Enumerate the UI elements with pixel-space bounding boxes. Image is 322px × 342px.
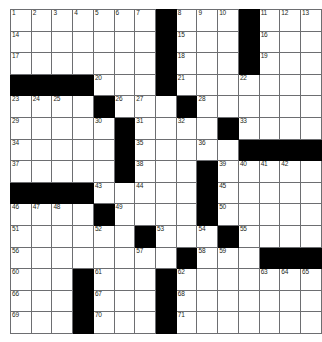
- crossword-cell[interactable]: [218, 53, 239, 75]
- crossword-cell[interactable]: [176, 161, 197, 183]
- crossword-cell[interactable]: 71: [176, 312, 197, 334]
- crossword-cell[interactable]: 53: [156, 225, 177, 247]
- crossword-cell[interactable]: 44: [135, 182, 156, 204]
- crossword-cell[interactable]: 15: [176, 31, 197, 53]
- crossword-cell[interactable]: [156, 117, 177, 139]
- crossword-cell[interactable]: 31: [135, 117, 156, 139]
- crossword-cell[interactable]: [259, 204, 280, 226]
- crossword-cell[interactable]: 60: [11, 269, 32, 291]
- crossword-cell[interactable]: [259, 74, 280, 96]
- crossword-cell[interactable]: [280, 53, 301, 75]
- crossword-cell[interactable]: [73, 225, 94, 247]
- crossword-cell[interactable]: 52: [93, 225, 114, 247]
- crossword-cell[interactable]: [31, 312, 52, 334]
- crossword-cell[interactable]: [259, 96, 280, 118]
- crossword-cell[interactable]: 59: [218, 247, 239, 269]
- crossword-cell[interactable]: [301, 117, 322, 139]
- crossword-cell[interactable]: 61: [93, 269, 114, 291]
- crossword-cell[interactable]: [114, 74, 135, 96]
- crossword-cell[interactable]: [73, 204, 94, 226]
- crossword-cell[interactable]: 69: [11, 312, 32, 334]
- crossword-cell[interactable]: [52, 139, 73, 161]
- crossword-cell[interactable]: [31, 139, 52, 161]
- crossword-cell[interactable]: 9: [197, 10, 218, 32]
- crossword-cell[interactable]: [114, 182, 135, 204]
- crossword-cell[interactable]: [280, 96, 301, 118]
- crossword-cell[interactable]: 7: [135, 10, 156, 32]
- crossword-cell[interactable]: [114, 290, 135, 312]
- crossword-cell[interactable]: 23: [11, 96, 32, 118]
- crossword-cell[interactable]: [52, 161, 73, 183]
- crossword-cell[interactable]: [218, 312, 239, 334]
- crossword-cell[interactable]: 57: [135, 247, 156, 269]
- crossword-cell[interactable]: [176, 139, 197, 161]
- crossword-cell[interactable]: 62: [176, 269, 197, 291]
- crossword-cell[interactable]: [238, 247, 259, 269]
- crossword-cell[interactable]: [218, 139, 239, 161]
- crossword-cell[interactable]: [93, 161, 114, 183]
- crossword-cell[interactable]: [114, 53, 135, 75]
- crossword-cell[interactable]: [52, 117, 73, 139]
- crossword-cell[interactable]: [280, 225, 301, 247]
- crossword-cell[interactable]: 28: [197, 96, 218, 118]
- crossword-cell[interactable]: 3: [52, 10, 73, 32]
- crossword-cell[interactable]: [31, 225, 52, 247]
- crossword-cell[interactable]: [135, 74, 156, 96]
- crossword-cell[interactable]: 32: [176, 117, 197, 139]
- crossword-cell[interactable]: 65: [301, 269, 322, 291]
- crossword-cell[interactable]: [280, 74, 301, 96]
- crossword-cell[interactable]: [197, 53, 218, 75]
- crossword-cell[interactable]: 50: [218, 204, 239, 226]
- crossword-cell[interactable]: 34: [11, 139, 32, 161]
- crossword-cell[interactable]: [197, 74, 218, 96]
- crossword-cell[interactable]: [238, 204, 259, 226]
- crossword-cell[interactable]: [93, 139, 114, 161]
- crossword-cell[interactable]: 68: [176, 290, 197, 312]
- crossword-cell[interactable]: 56: [11, 247, 32, 269]
- crossword-cell[interactable]: [135, 31, 156, 53]
- crossword-cell[interactable]: 22: [238, 74, 259, 96]
- crossword-cell[interactable]: [259, 182, 280, 204]
- crossword-cell[interactable]: 63: [259, 269, 280, 291]
- crossword-cell[interactable]: 11: [259, 10, 280, 32]
- crossword-cell[interactable]: 48: [52, 204, 73, 226]
- crossword-cell[interactable]: 13: [301, 10, 322, 32]
- crossword-cell[interactable]: [238, 290, 259, 312]
- crossword-cell[interactable]: [135, 290, 156, 312]
- crossword-cell[interactable]: [301, 96, 322, 118]
- crossword-cell[interactable]: [156, 139, 177, 161]
- crossword-cell[interactable]: [73, 31, 94, 53]
- crossword-cell[interactable]: [218, 269, 239, 291]
- crossword-cell[interactable]: 8: [176, 10, 197, 32]
- crossword-cell[interactable]: [156, 204, 177, 226]
- crossword-cell[interactable]: 19: [259, 53, 280, 75]
- crossword-cell[interactable]: [52, 225, 73, 247]
- crossword-cell[interactable]: [259, 312, 280, 334]
- crossword-cell[interactable]: 14: [11, 31, 32, 53]
- crossword-cell[interactable]: 47: [31, 204, 52, 226]
- crossword-cell[interactable]: 35: [135, 139, 156, 161]
- crossword-cell[interactable]: [301, 74, 322, 96]
- crossword-cell[interactable]: [238, 312, 259, 334]
- crossword-cell[interactable]: [176, 225, 197, 247]
- crossword-cell[interactable]: 38: [135, 161, 156, 183]
- crossword-cell[interactable]: [52, 31, 73, 53]
- crossword-cell[interactable]: 33: [238, 117, 259, 139]
- crossword-cell[interactable]: 20: [93, 74, 114, 96]
- crossword-cell[interactable]: 30: [93, 117, 114, 139]
- crossword-cell[interactable]: [135, 204, 156, 226]
- crossword-cell[interactable]: [301, 225, 322, 247]
- crossword-cell[interactable]: [31, 117, 52, 139]
- crossword-cell[interactable]: [259, 290, 280, 312]
- crossword-cell[interactable]: 70: [93, 312, 114, 334]
- crossword-cell[interactable]: 18: [176, 53, 197, 75]
- crossword-cell[interactable]: [73, 117, 94, 139]
- crossword-cell[interactable]: [280, 182, 301, 204]
- crossword-cell[interactable]: [301, 312, 322, 334]
- crossword-cell[interactable]: [52, 290, 73, 312]
- crossword-cell[interactable]: [176, 182, 197, 204]
- crossword-cell[interactable]: [114, 312, 135, 334]
- crossword-cell[interactable]: 5: [93, 10, 114, 32]
- crossword-cell[interactable]: 25: [52, 96, 73, 118]
- crossword-cell[interactable]: [135, 269, 156, 291]
